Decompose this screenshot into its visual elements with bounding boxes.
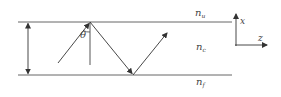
upper-region-subscript: u (201, 12, 205, 19)
lower-region-subscript: f (202, 81, 204, 88)
z-axis-label: z (258, 34, 263, 43)
lower-region-label: nf (196, 77, 205, 88)
waveguide-diagram: θ nu nc nf x z (0, 0, 281, 97)
diagram-canvas (0, 0, 281, 97)
upper-region-label: nu (195, 8, 205, 19)
reflected-ray-up (133, 33, 167, 75)
x-axis-label: x (240, 17, 245, 26)
core-region-label: nc (196, 42, 206, 53)
core-region-subscript: c (202, 46, 205, 53)
angle-label: θ (80, 30, 86, 40)
reflected-ray-down (90, 22, 132, 74)
